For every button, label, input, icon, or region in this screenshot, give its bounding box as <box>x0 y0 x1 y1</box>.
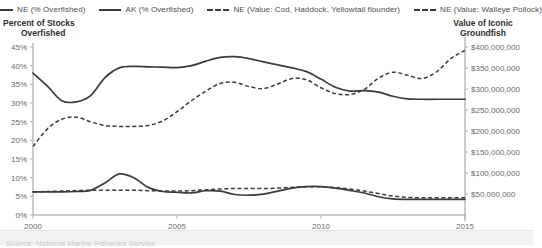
right-tick-label: $350,000,000 <box>471 64 520 73</box>
right-tick-label: $150,000,000 <box>471 148 520 157</box>
left-tick-label: 30% <box>11 99 27 108</box>
series-line-3 <box>33 187 465 198</box>
left-tick-label: 25% <box>11 118 27 127</box>
footer-source-text: Source: National Marine Fisheries Servic… <box>6 239 306 248</box>
right-tick-label: $400,000,000 <box>471 43 520 52</box>
left-tick-label: 40% <box>11 62 27 71</box>
left-tick-label: 20% <box>11 136 27 145</box>
left-tick-label: 15% <box>11 155 27 164</box>
series-line-1 <box>33 174 465 200</box>
left-tick-label: 5% <box>15 192 27 201</box>
left-tick-label: 35% <box>11 80 27 89</box>
right-tick-label: $50,000,000 <box>471 190 516 199</box>
right-tick-label: $200,000,000 <box>471 127 520 136</box>
right-tick-label: $100,000,000 <box>471 169 520 178</box>
left-tick-label: 10% <box>11 174 27 183</box>
right-tick-label: $300,000,000 <box>471 85 520 94</box>
left-tick-label: 45% <box>11 43 27 52</box>
right-tick-label: $250,000,000 <box>471 106 520 115</box>
series-line-0 <box>33 57 465 103</box>
left-tick-label: 0% <box>15 211 27 220</box>
